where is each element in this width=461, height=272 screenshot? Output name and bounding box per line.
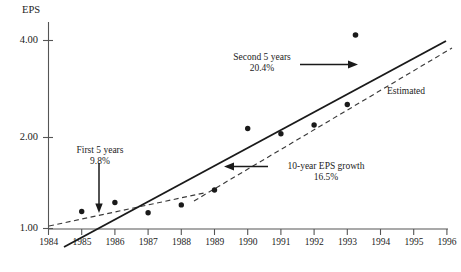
data-point	[345, 102, 350, 107]
data-point	[311, 122, 316, 127]
annotation-second-5-years-pct: 20.4%	[223, 63, 301, 74]
annotation-first-5-years-pct: 9.8%	[48, 156, 152, 167]
annotation-ten-year-growth-line1: 10-year EPS growth	[271, 161, 381, 172]
x-tick-label: 1988	[165, 237, 199, 247]
y-tick-label: 4.00	[4, 34, 38, 45]
x-tick-label: 1985	[65, 237, 99, 247]
annotation-first-5-years-line1: First 5 years	[48, 145, 152, 156]
x-tick-label: 1984	[32, 237, 66, 247]
x-axis-ticks	[49, 229, 447, 235]
data-point	[112, 200, 117, 205]
data-point	[145, 210, 150, 215]
y-tick-label: 2.00	[4, 131, 38, 142]
data-point	[245, 126, 250, 131]
data-point	[79, 209, 84, 214]
data-point	[278, 131, 283, 136]
first-5-years-arrow-icon	[95, 163, 102, 213]
data-points	[79, 32, 358, 215]
x-tick-label: 1989	[198, 237, 232, 247]
x-tick-label: 1995	[397, 237, 431, 247]
x-tick-label: 1987	[131, 237, 165, 247]
data-point	[179, 202, 184, 207]
y-axis-title: EPS	[22, 4, 40, 15]
annotation-first-5-years: First 5 years 9.8%	[48, 145, 152, 167]
annotation-second-5-years: Second 5 years 20.4%	[223, 52, 301, 74]
x-tick-label: 1986	[98, 237, 132, 247]
x-tick-label: 1996	[430, 237, 461, 247]
x-tick-label: 1992	[297, 237, 331, 247]
data-point	[212, 187, 217, 192]
x-tick-label: 1994	[364, 237, 398, 247]
x-tick-label: 1991	[264, 237, 298, 247]
first-5-years-dashed-line	[49, 193, 204, 226]
x-tick-label: 1993	[331, 237, 365, 247]
ten-year-growth-arrow-icon	[224, 163, 268, 171]
second-5-years-arrow-icon	[300, 61, 358, 69]
annotation-ten-year-growth-pct: 16.5%	[271, 172, 381, 183]
data-point	[353, 32, 359, 38]
annotation-estimated: Estimated	[387, 86, 425, 96]
annotation-ten-year-growth: 10-year EPS growth 16.5%	[271, 161, 381, 183]
y-tick-label: 1.00	[4, 222, 38, 233]
annotation-second-5-years-line1: Second 5 years	[223, 52, 301, 63]
x-tick-label: 1990	[231, 237, 265, 247]
